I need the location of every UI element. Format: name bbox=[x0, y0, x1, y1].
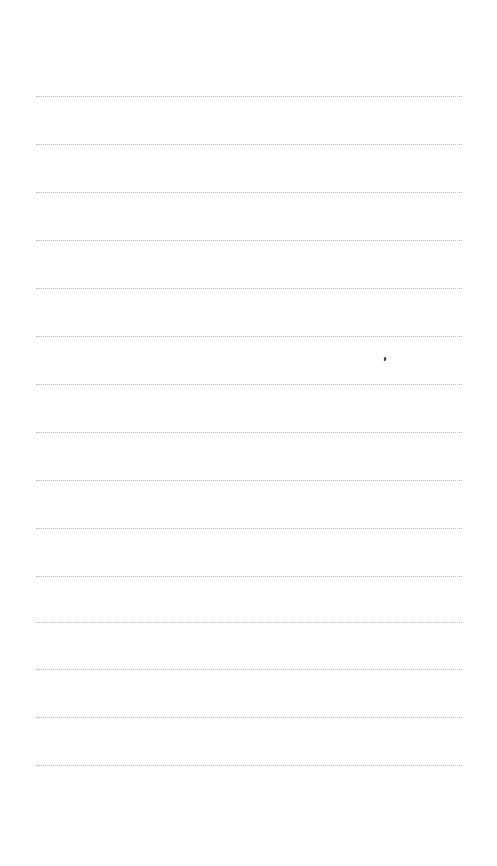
ruled-line bbox=[36, 384, 462, 385]
ruled-line bbox=[36, 480, 462, 481]
ruled-line bbox=[36, 240, 462, 241]
ruled-line bbox=[36, 288, 462, 289]
ruled-line bbox=[36, 336, 462, 337]
ruled-line bbox=[36, 96, 462, 97]
ink-mark bbox=[384, 357, 387, 361]
ruled-line bbox=[36, 669, 462, 670]
ruled-line bbox=[36, 717, 462, 718]
ruled-line bbox=[36, 144, 462, 145]
ruled-line bbox=[36, 576, 462, 577]
ruled-line bbox=[36, 432, 462, 433]
ruled-line bbox=[36, 192, 462, 193]
lined-paper-sheet bbox=[0, 0, 497, 866]
ruled-line bbox=[36, 528, 462, 529]
ruled-line bbox=[36, 622, 462, 623]
ruled-line bbox=[36, 765, 462, 766]
